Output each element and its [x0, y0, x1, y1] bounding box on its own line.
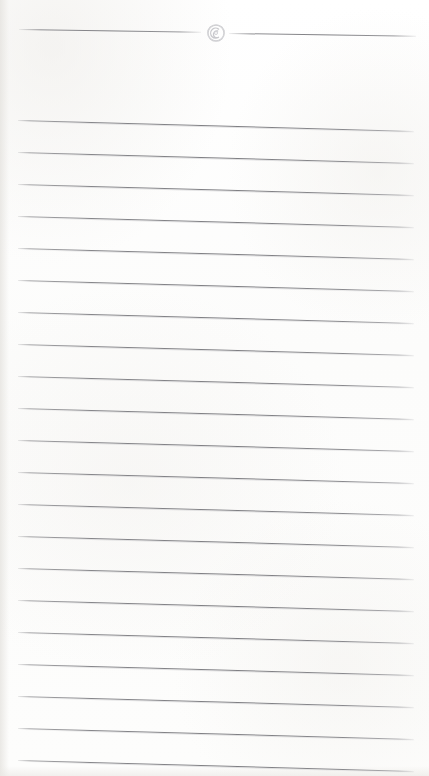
ruled-line: [18, 344, 414, 356]
ruled-line: [18, 216, 414, 228]
ruled-line: [18, 280, 414, 292]
ruled-line: [18, 248, 414, 260]
ruled-line: [18, 696, 414, 708]
ruled-line: [18, 600, 414, 612]
ruled-line: [18, 568, 414, 580]
ruled-line: [18, 120, 414, 132]
ruled-line: [18, 184, 414, 196]
ruled-line: [18, 536, 414, 548]
ruled-line: [18, 728, 414, 740]
ruled-line: [18, 760, 414, 772]
ruled-line: [18, 632, 414, 644]
ruled-line: [18, 312, 414, 324]
ruled-line: [18, 376, 414, 388]
note-page: [0, 0, 429, 776]
ruled-line: [18, 440, 414, 452]
ruled-line: [18, 664, 414, 676]
ruled-writing-area: [0, 0, 429, 776]
ruled-line: [18, 152, 414, 164]
ruled-line: [18, 504, 414, 516]
ruled-line: [18, 408, 414, 420]
ruled-line: [18, 472, 414, 484]
